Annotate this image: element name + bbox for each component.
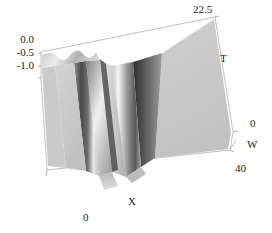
w-tick-label-0: 0.0 — [4, 34, 34, 45]
x-tick-label-40: 40 — [235, 163, 246, 174]
surface-plateau-right — [155, 19, 231, 158]
x-tick-label-0: 0 — [83, 212, 89, 223]
surface-mesh — [42, 19, 231, 190]
x-axis-label: X — [128, 196, 136, 207]
w-tick-label-neg05: -0.5 — [2, 47, 34, 58]
x-tick-40 — [230, 150, 234, 152]
t-tick-label-225: 22.5 — [193, 4, 212, 15]
surface-plot-figure: 0.0 -0.5 -1.0 22.5 T 0 W 40 X 0 — [0, 0, 272, 233]
x-tick-0 — [46, 170, 47, 176]
t-tick-label-0: 0 — [250, 118, 256, 129]
w-axis-label: W — [247, 139, 257, 150]
t-tick-225 — [215, 16, 219, 17]
surface-plot-canvas — [0, 0, 272, 233]
t-tick-0 — [233, 131, 238, 132]
w-tick-label-neg10: -1.0 — [2, 60, 34, 71]
t-axis-label: T — [220, 53, 227, 64]
